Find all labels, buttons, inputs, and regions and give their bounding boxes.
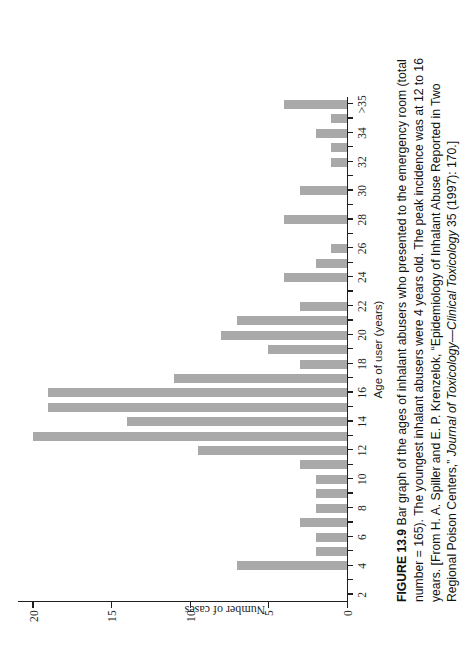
x-tick	[348, 190, 353, 191]
x-tick-label: 30	[356, 185, 368, 197]
x-tick	[348, 204, 353, 205]
x-tick	[348, 536, 353, 537]
bar-slot	[17, 184, 347, 198]
y-tick	[190, 602, 191, 608]
x-tick	[348, 175, 353, 176]
x-tick	[348, 420, 353, 421]
bar	[331, 244, 347, 253]
bar-slot	[17, 213, 347, 227]
bar-slot	[17, 559, 347, 573]
x-tick-label: 14	[356, 416, 368, 428]
bar-slot	[17, 270, 347, 284]
x-tick	[348, 449, 353, 450]
bar	[316, 533, 347, 542]
bar-slot	[17, 198, 347, 212]
figure-caption: FIGURE 13.9 Bar graph of the ages of inh…	[394, 42, 461, 602]
bar	[331, 114, 347, 123]
bar	[300, 461, 347, 470]
x-tick	[348, 392, 353, 393]
bar-slot	[17, 227, 347, 241]
bar-slot	[17, 141, 347, 155]
y-tick-label: 10	[185, 610, 197, 636]
y-tick-label: 0	[342, 610, 354, 636]
plot-area: 05101520 246810121416182022242628303234>…	[18, 97, 348, 602]
x-tick	[348, 493, 353, 494]
bar	[198, 446, 347, 455]
x-tick	[348, 233, 353, 234]
x-tick	[348, 435, 353, 436]
x-tick	[348, 334, 353, 335]
y-tick	[32, 602, 33, 608]
bar-slot	[17, 342, 347, 356]
bar-slot	[17, 155, 347, 169]
x-tick	[348, 161, 353, 162]
bar	[300, 186, 347, 195]
x-tick	[348, 291, 353, 292]
x-tick-label: 16	[356, 387, 368, 399]
y-tick	[111, 602, 112, 608]
x-tick	[348, 146, 353, 147]
bar-slot	[17, 588, 347, 602]
x-tick-label: 12	[356, 445, 368, 457]
bar	[316, 489, 347, 498]
bar	[237, 316, 347, 325]
bar	[174, 374, 347, 383]
bar	[284, 215, 347, 224]
y-tick	[347, 602, 348, 608]
x-tick-label: 10	[356, 474, 368, 486]
y-tick	[268, 602, 269, 608]
x-tick	[348, 507, 353, 508]
bar-slot	[17, 443, 347, 457]
y-tick-label: 5	[263, 610, 275, 636]
bar-series	[17, 97, 347, 602]
x-tick	[348, 319, 353, 320]
bar-slot	[17, 357, 347, 371]
x-tick	[348, 594, 353, 595]
figure-label: FIGURE 13.9	[395, 529, 409, 602]
caption-journal: Journal of Toxicology—Clinical Toxicolog…	[445, 230, 459, 456]
x-tick	[348, 262, 353, 263]
bar-slot	[17, 256, 347, 270]
x-tick	[348, 363, 353, 364]
x-tick-label: 32	[356, 156, 368, 168]
x-tick	[348, 132, 353, 133]
bar	[268, 345, 347, 354]
bar-slot	[17, 126, 347, 140]
bar-slot	[17, 386, 347, 400]
bar-slot	[17, 429, 347, 443]
bar-slot	[17, 314, 347, 328]
bar	[331, 158, 347, 167]
x-tick-label: 8	[356, 505, 368, 511]
x-tick-label: 4	[356, 563, 368, 569]
bar	[300, 360, 347, 369]
bar	[48, 388, 347, 397]
bar	[316, 475, 347, 484]
x-tick-label: 22	[356, 300, 368, 312]
x-tick-label: 6	[356, 534, 368, 540]
x-tick	[348, 565, 353, 566]
bar	[33, 432, 347, 441]
x-tick	[348, 550, 353, 551]
x-tick-label: 20	[356, 329, 368, 341]
bar	[331, 143, 347, 152]
caption-tail: 35 (1997): 170.]	[445, 141, 459, 230]
bar-slot	[17, 328, 347, 342]
bar	[48, 403, 347, 412]
bar	[284, 273, 347, 282]
bar	[127, 417, 347, 426]
bar-slot	[17, 530, 347, 544]
x-axis-title: Age of user (years)	[372, 97, 384, 602]
x-tick-label: >35	[356, 95, 368, 113]
bar	[300, 518, 347, 527]
bar	[300, 302, 347, 311]
bar	[221, 331, 347, 340]
x-tick	[348, 117, 353, 118]
bar	[237, 561, 347, 570]
x-tick-label: 24	[356, 272, 368, 284]
bar-slot	[17, 544, 347, 558]
x-tick	[348, 377, 353, 378]
bar-slot	[17, 97, 347, 111]
bar	[316, 504, 347, 513]
